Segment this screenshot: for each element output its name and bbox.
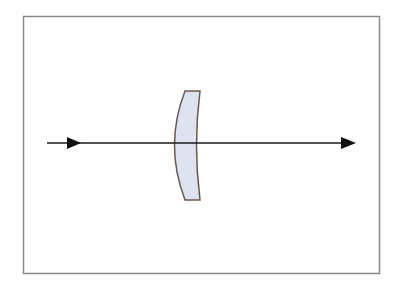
diagram-canvas — [0, 0, 403, 295]
frame-border — [24, 17, 380, 274]
